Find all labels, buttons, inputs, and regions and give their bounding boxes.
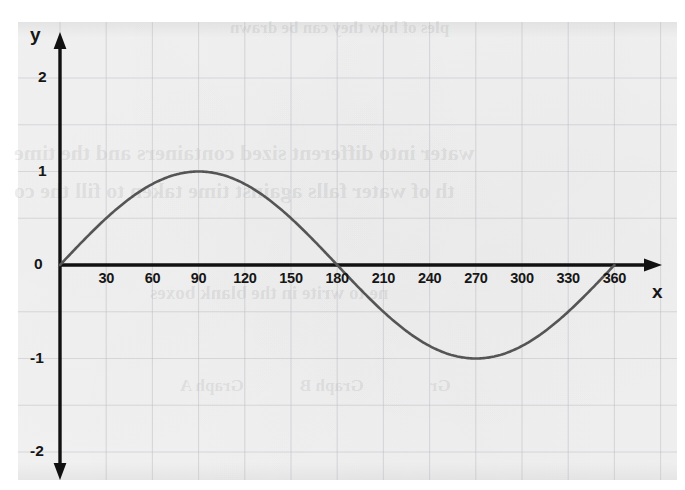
x-tick-label-90: 90	[191, 270, 207, 286]
y-tick-label-0: 0	[34, 255, 43, 273]
x-axis-name: x	[652, 281, 663, 303]
x-tick-label-150: 150	[279, 270, 302, 286]
x-tick-label-30: 30	[98, 270, 114, 286]
x-tick-label-330: 330	[557, 270, 580, 286]
x-tick-label-120: 120	[233, 270, 256, 286]
x-tick-label-210: 210	[372, 270, 395, 286]
y-tick-label-1: 1	[38, 162, 47, 180]
x-tick-label-180: 180	[326, 270, 349, 286]
y-axis-arrow-down	[54, 463, 67, 480]
y-tick-label-neg1: -1	[30, 349, 44, 367]
y-axis-arrow-up	[54, 32, 67, 49]
x-tick-label-300: 300	[510, 270, 533, 286]
sine-graph-plot	[0, 0, 685, 490]
y-axis-name: y	[30, 24, 41, 46]
grid-vertical-lines	[60, 22, 661, 480]
x-tick-label-270: 270	[464, 270, 487, 286]
x-axis-arrow-right	[644, 259, 662, 272]
y-tick-label-neg2: -2	[30, 442, 44, 460]
x-tick-label-360: 360	[603, 270, 626, 286]
graph-page: ples of how they can be drawn water into…	[0, 0, 685, 490]
x-tick-label-60: 60	[145, 270, 161, 286]
x-tick-label-240: 240	[418, 270, 441, 286]
y-tick-label-2: 2	[38, 68, 47, 86]
